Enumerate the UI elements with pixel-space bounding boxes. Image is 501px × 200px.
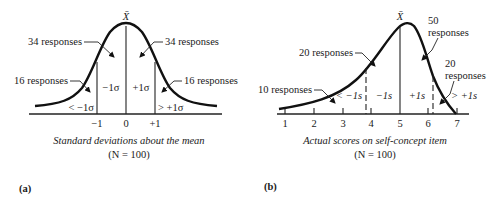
panel-b-mean-symbol: X̄ <box>396 11 404 22</box>
panel-b-tick-label-4: 4 <box>368 118 374 129</box>
panel-a-label-16-right: 16 responses <box>184 75 238 86</box>
panel-a-label-34-left: 34 responses <box>28 36 82 47</box>
panel-a-tick-plus1: +1 <box>149 118 160 129</box>
panel-a-region-far-right: > +1σ <box>158 102 184 113</box>
panel-a-label-34-right: 34 responses <box>165 36 219 47</box>
panel-b-tick-label-3: 3 <box>340 118 345 129</box>
panel-b-label-20-right-line1: 20 <box>445 58 456 69</box>
panel-a-mean-symbol: X̄ <box>122 11 130 22</box>
panel-b-region-inner-right: +1s <box>409 90 425 101</box>
panel-a-region-far-left: < −1σ <box>69 102 95 113</box>
panel-a-region-inner-right: +1σ <box>133 82 150 93</box>
panel-a-caption: Standard deviations about the mean <box>53 135 204 146</box>
panel-b-tick-label-5: 5 <box>397 118 402 129</box>
panel-a-label-16-left: 16 responses <box>14 75 68 86</box>
panel-b-tick-label-7: 7 <box>454 118 459 129</box>
panel-b-label-50-line2: responses <box>428 27 469 38</box>
panel-b-leader-20-left <box>355 53 375 66</box>
panel-b-tick-label-1: 1 <box>282 118 287 129</box>
panel-b-tick-label-6: 6 <box>425 118 430 129</box>
panel-b-region-far-right: > +1s <box>451 90 477 101</box>
panel-b-caption: Actual scores on self-concept item <box>302 135 447 146</box>
panel-a-tick-minus1: −1 <box>91 118 102 129</box>
panel-b-label-20-left: 20 responses <box>299 47 353 58</box>
panel-b-n-label: (N = 100) <box>354 149 396 161</box>
panel-b-label-50-line1: 50 <box>428 15 439 26</box>
panel-a-label: (a) <box>19 183 32 195</box>
panel-b-region-inner-left: −1s <box>376 90 392 101</box>
panel-b-tick-label-2: 2 <box>311 118 316 129</box>
panel-b-skewed-distribution: X̄ 50 responses 20 responses 10 response… <box>258 11 486 193</box>
panel-a-n-label: (N = 100) <box>108 149 150 161</box>
panel-b-label-20-right-line2: responses <box>445 70 486 81</box>
panel-a-normal-distribution: X̄ 34 responses 34 responses 16 response… <box>14 11 238 195</box>
distribution-figure: X̄ 34 responses 34 responses 16 response… <box>0 0 501 200</box>
panel-b-region-far-left: < −1s <box>336 90 362 101</box>
panel-a-tick-0: 0 <box>123 118 128 129</box>
panel-b-label: (b) <box>264 181 277 193</box>
panel-a-region-inner-left: −1σ <box>103 82 120 93</box>
panel-b-label-10: 10 responses <box>258 84 312 95</box>
